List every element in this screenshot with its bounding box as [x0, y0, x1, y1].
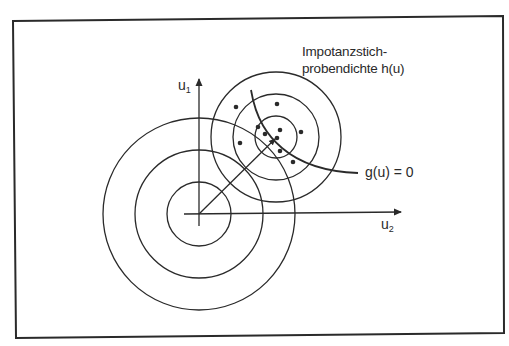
sample-point	[278, 128, 283, 133]
design-point-vector	[199, 139, 275, 214]
sample-point	[291, 160, 296, 165]
u1-axis-label: u1	[178, 78, 191, 95]
u2-axis	[184, 212, 401, 214]
sample-point	[256, 125, 261, 130]
importance-sampling-diagram	[0, 0, 509, 346]
sample-point	[263, 132, 268, 137]
sample-point	[278, 149, 283, 154]
u2-label-subscript: 2	[389, 224, 394, 234]
importance-density-label-line2: probendichte h(u)	[302, 60, 404, 77]
sample-point	[234, 105, 239, 110]
sample-point	[299, 130, 304, 135]
importance-density-label-line1: Impotanzstich-	[302, 43, 404, 60]
limit-state-curve	[251, 90, 358, 173]
importance-density-label: Impotanzstich- probendichte h(u)	[302, 43, 404, 77]
u2-axis-label: u2	[381, 217, 394, 234]
u1-label-subscript: 1	[186, 85, 191, 95]
u1-label-base: u	[178, 77, 186, 93]
u2-label-base: u	[381, 216, 389, 232]
sample-point	[275, 136, 280, 141]
limit-state-label: g(u) = 0	[365, 165, 414, 179]
sample-point	[275, 102, 280, 107]
sample-point	[238, 141, 243, 146]
